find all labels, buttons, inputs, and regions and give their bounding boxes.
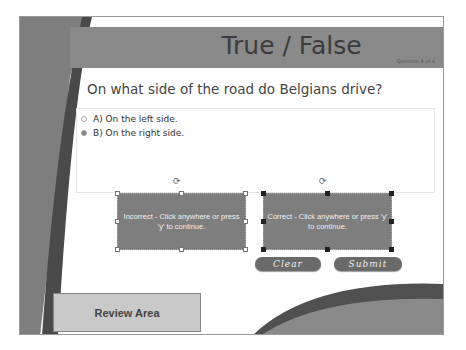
resize-handle[interactable] — [261, 219, 266, 224]
resize-handle[interactable] — [325, 191, 330, 196]
slide-canvas: True / False Question 4 of 4 On what sid… — [19, 16, 444, 335]
slide-title: True / False — [20, 31, 443, 60]
answer-options: A) On the left side. B) On the right sid… — [76, 108, 435, 193]
radio-icon[interactable] — [81, 116, 87, 122]
clear-button[interactable]: Clear — [255, 257, 321, 271]
resize-handle[interactable] — [179, 247, 184, 252]
resize-handle[interactable] — [325, 247, 330, 252]
resize-handle[interactable] — [179, 191, 184, 196]
resize-handle[interactable] — [243, 219, 248, 224]
question-text: On what side of the road do Belgians dri… — [87, 81, 383, 97]
resize-handle[interactable] — [243, 247, 248, 252]
submit-button[interactable]: Submit — [334, 257, 402, 271]
answer-option-b[interactable]: B) On the right side. — [81, 128, 184, 138]
rotate-handle-icon[interactable]: ⟳ — [173, 176, 181, 186]
answer-label: A) On the left side. — [93, 114, 178, 124]
resize-handle[interactable] — [115, 247, 120, 252]
rotate-handle-icon[interactable]: ⟳ — [319, 176, 327, 186]
resize-handle[interactable] — [261, 191, 266, 196]
resize-handle[interactable] — [389, 219, 394, 224]
incorrect-feedback-caption[interactable]: Incorrect - Click anywhere or press 'y' … — [117, 193, 246, 250]
correct-feedback-caption[interactable]: Correct - Click anywhere or press 'y' to… — [263, 193, 392, 250]
resize-handle[interactable] — [389, 191, 394, 196]
resize-handle[interactable] — [261, 247, 266, 252]
resize-handle[interactable] — [389, 247, 394, 252]
resize-handle[interactable] — [115, 191, 120, 196]
review-area: Review Area — [53, 293, 201, 332]
resize-handle[interactable] — [243, 191, 248, 196]
radio-selected-icon[interactable] — [81, 130, 87, 136]
answer-option-a[interactable]: A) On the left side. — [81, 114, 178, 124]
question-counter: Question 4 of 4 — [397, 58, 435, 64]
answer-label: B) On the right side. — [93, 128, 184, 138]
resize-handle[interactable] — [115, 219, 120, 224]
